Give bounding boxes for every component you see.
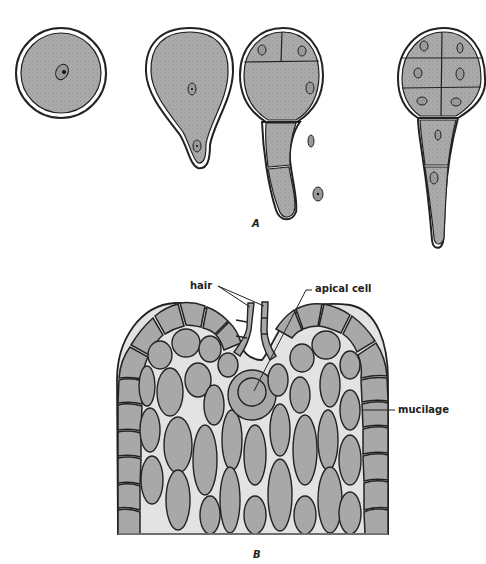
hair-filaments [234,302,276,360]
stage-1-zygote [16,28,106,118]
stage-2-pear [146,28,233,168]
diagram-canvas [0,0,486,564]
hair-label: hair [190,280,212,291]
apical-section [117,286,395,534]
stage-4-eight-celled [398,28,485,248]
apical-cell-label: apical cell [315,283,371,294]
panel-b-label: B [253,549,261,560]
stage-3-four-celled [240,28,323,219]
mucilage-label: mucilage [398,404,449,415]
panel-a-label: A [252,218,260,229]
